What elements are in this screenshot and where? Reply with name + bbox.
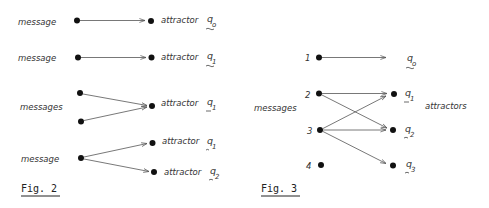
message-number: 1 (305, 53, 310, 63)
fig2: message attractor q o message attractor … (18, 13, 220, 196)
attractor-q0: q o (406, 52, 416, 69)
figure-caption: Fig. 3 (261, 183, 297, 194)
message-label: message (18, 17, 56, 27)
attractor-subscript: o (212, 21, 216, 29)
attractors-group-label: attractors (425, 101, 467, 111)
message-node (78, 155, 84, 161)
message-node (78, 119, 84, 125)
vector-tilde-icon (404, 137, 408, 138)
attractor-q3: q 3 (390, 158, 415, 174)
attractor-subscript: 1 (212, 58, 216, 66)
attractor-node (149, 55, 155, 61)
messages-group-label: messages (254, 103, 297, 113)
message-node (75, 55, 81, 61)
attractor-label: attractor (162, 136, 200, 146)
mapping-arrow (84, 159, 149, 172)
mapping-arrow (83, 94, 147, 106)
fig2-caption: Fig. 2 (21, 183, 60, 196)
attractor-node (149, 103, 155, 109)
attractor-q1: q 1 (391, 87, 414, 103)
fig3-caption: Fig. 3 (261, 183, 300, 196)
attractor-subscript: 1 (212, 143, 216, 151)
attractor-node (390, 163, 396, 169)
attractor-subscript: 3 (411, 166, 415, 174)
mapping-arrow-3-q1 (323, 96, 386, 129)
fig2-row-3: messages attractor q 1 (20, 90, 216, 125)
attractor-subscript: 1 (410, 95, 414, 103)
attractor-node (390, 127, 396, 133)
fig3: messages attractors 1 2 3 4 q o q 1 (254, 52, 467, 196)
attractor-node (148, 18, 154, 24)
vector-tilde-icon (405, 172, 409, 173)
message-number: 3 (307, 126, 312, 136)
attractor-subscript: 1 (212, 104, 216, 112)
mapping-arrow-3-q3 (323, 132, 386, 164)
diagram-canvas: message attractor q o message attractor … (0, 0, 489, 208)
message-number: 2 (305, 90, 310, 100)
message-node-4 (318, 162, 324, 168)
attractor-node (150, 140, 156, 146)
attractor-q2: q 2 (390, 123, 415, 139)
figure-caption: Fig. 2 (21, 183, 57, 194)
attractor-label: attractor (164, 167, 202, 177)
fig2-row-1: message attractor q o (18, 13, 216, 30)
attractor-node (391, 91, 397, 97)
message-number: 4 (306, 161, 311, 171)
vector-tilde-icon (209, 179, 213, 180)
attractor-label: attractor (161, 98, 199, 108)
attractor-label: attractor (161, 15, 199, 25)
message-node (74, 18, 80, 24)
mapping-arrow (84, 144, 147, 158)
message-node-2 (316, 91, 322, 97)
attractor-label: attractor (161, 52, 199, 62)
message-node-3 (317, 127, 323, 133)
attractor-subscript: 2 (410, 131, 415, 139)
messages-label: messages (20, 102, 63, 112)
message-label: message (21, 154, 59, 164)
mapping-arrow-2-q2 (322, 95, 387, 128)
attractor-subscript: 2 (215, 173, 220, 181)
fig2-row-4: message attractor q 1 attractor q 2 (21, 135, 220, 181)
message-label: message (18, 53, 56, 63)
attractor-node (151, 169, 157, 175)
fig2-row-2: message attractor q 1 (18, 50, 216, 67)
mapping-arrow (84, 107, 147, 121)
attractor-subscript: o (412, 60, 416, 68)
vector-tilde-icon (206, 149, 209, 150)
message-node (77, 90, 83, 96)
message-node-1 (316, 55, 322, 61)
